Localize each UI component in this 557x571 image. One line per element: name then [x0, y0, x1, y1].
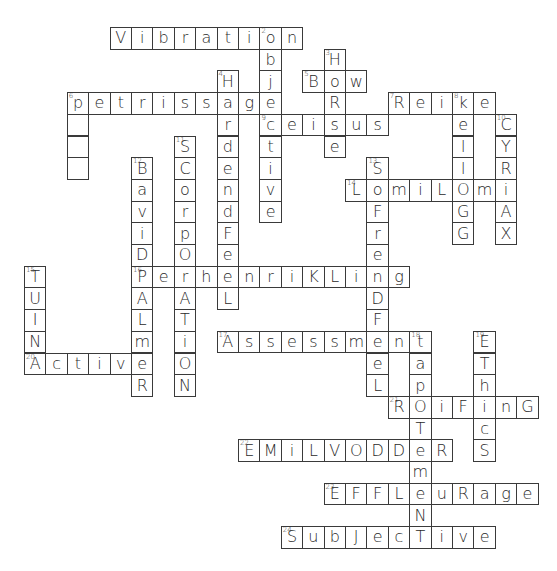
crossword-cell[interactable]: v [131, 201, 153, 224]
crossword-cell[interactable]: e [131, 353, 153, 376]
crossword-cell[interactable]: b [152, 27, 174, 50]
crossword-cell[interactable]: 10C [495, 114, 517, 137]
crossword-cell[interactable]: e [366, 244, 388, 267]
crossword-cell[interactable]: 7R [388, 92, 410, 115]
crossword-cell[interactable]: D [366, 287, 388, 310]
crossword-cell[interactable]: V [324, 439, 346, 462]
crossword-cell[interactable]: O [409, 396, 431, 419]
crossword-cell[interactable]: e [217, 157, 239, 180]
crossword-cell[interactable]: g [388, 266, 410, 289]
crossword-cell[interactable]: i [409, 179, 431, 202]
crossword-cell[interactable]: n [495, 396, 517, 419]
crossword-cell[interactable]: e [88, 92, 110, 115]
crossword-cell[interactable]: o [324, 70, 346, 93]
crossword-cell[interactable]: O [452, 179, 474, 202]
crossword-cell[interactable]: c [388, 526, 410, 549]
crossword-cell[interactable]: T [473, 353, 495, 376]
crossword-cell[interactable]: e [366, 526, 388, 549]
crossword-cell[interactable]: i [431, 396, 453, 419]
crossword-cell[interactable]: 21R [388, 396, 410, 419]
crossword-cell[interactable]: i [431, 526, 453, 549]
crossword-cell[interactable]: h [473, 374, 495, 397]
crossword-cell[interactable]: p [409, 374, 431, 397]
crossword-cell[interactable]: o [366, 179, 388, 202]
crossword-cell[interactable]: h [195, 266, 217, 289]
crossword-cell[interactable]: A [174, 287, 196, 310]
crossword-cell[interactable]: J [345, 526, 367, 549]
crossword-cell[interactable]: 6p [67, 92, 89, 115]
crossword-cell[interactable]: 20A [24, 353, 46, 376]
crossword-cell[interactable]: 23E [324, 483, 346, 506]
crossword-cell[interactable]: t [217, 27, 239, 50]
crossword-cell[interactable]: i [345, 266, 367, 289]
crossword-cell[interactable]: g [238, 92, 260, 115]
crossword-cell[interactable]: i [495, 179, 517, 202]
crossword-cell[interactable]: e [366, 331, 388, 354]
crossword-cell[interactable]: s [324, 114, 346, 137]
crossword-cell[interactable]: s [174, 92, 196, 115]
crossword-cell[interactable]: l [452, 136, 474, 159]
crossword-cell[interactable]: c [473, 418, 495, 441]
crossword-cell[interactable]: i [88, 353, 110, 376]
crossword-cell[interactable]: d [217, 201, 239, 224]
crossword-cell[interactable]: o [174, 179, 196, 202]
crossword-cell[interactable]: i [302, 114, 324, 137]
crossword-cell[interactable]: N [409, 504, 431, 527]
crossword-cell[interactable]: 24S [281, 526, 303, 549]
crossword-cell[interactable]: m [345, 331, 367, 354]
crossword-cell[interactable]: a [473, 483, 495, 506]
crossword-cell[interactable]: 12B [131, 157, 153, 180]
crossword-cell[interactable]: F [452, 396, 474, 419]
crossword-cell[interactable]: D [388, 439, 410, 462]
crossword-cell[interactable]: i [473, 396, 495, 419]
crossword-cell[interactable] [67, 136, 89, 159]
crossword-cell[interactable]: a [409, 353, 431, 376]
crossword-cell[interactable]: w [345, 70, 367, 93]
crossword-cell[interactable]: i [131, 27, 153, 50]
crossword-cell[interactable]: e [409, 92, 431, 115]
crossword-cell[interactable]: e [324, 136, 346, 159]
crossword-cell[interactable]: 11S [174, 136, 196, 159]
crossword-cell[interactable]: j [259, 70, 281, 93]
crossword-cell[interactable]: p [174, 222, 196, 245]
crossword-cell[interactable]: e [366, 353, 388, 376]
crossword-cell[interactable]: O [174, 244, 196, 267]
crossword-cell[interactable]: I [24, 309, 46, 332]
crossword-cell[interactable]: m [388, 179, 410, 202]
crossword-cell[interactable]: 17A [217, 331, 239, 354]
crossword-cell[interactable]: r [366, 222, 388, 245]
crossword-cell[interactable]: b [259, 49, 281, 72]
crossword-cell[interactable]: e [409, 439, 431, 462]
crossword-cell[interactable]: e [217, 266, 239, 289]
crossword-cell[interactable]: F [366, 201, 388, 224]
crossword-cell[interactable]: e [281, 331, 303, 354]
crossword-cell[interactable] [67, 114, 89, 137]
crossword-cell[interactable]: T [409, 526, 431, 549]
crossword-cell[interactable]: G [452, 201, 474, 224]
crossword-cell[interactable]: X [495, 222, 517, 245]
crossword-cell[interactable]: n [281, 27, 303, 50]
crossword-cell[interactable]: v [452, 526, 474, 549]
crossword-cell[interactable]: i [152, 92, 174, 115]
crossword-cell[interactable]: F [366, 309, 388, 332]
crossword-cell[interactable]: 22E [238, 439, 260, 462]
crossword-cell[interactable]: r [174, 266, 196, 289]
crossword-cell[interactable]: 4H [217, 70, 239, 93]
crossword-cell[interactable]: R [131, 374, 153, 397]
crossword-cell[interactable]: d [217, 136, 239, 159]
crossword-cell[interactable]: e [473, 526, 495, 549]
crossword-cell[interactable]: R [452, 483, 474, 506]
crossword-cell[interactable]: O [345, 439, 367, 462]
crossword-cell[interactable]: r [131, 92, 153, 115]
crossword-cell[interactable]: 13S [366, 157, 388, 180]
crossword-cell[interactable]: D [131, 244, 153, 267]
crossword-cell[interactable]: g [495, 483, 517, 506]
crossword-cell[interactable]: i [431, 92, 453, 115]
crossword-cell[interactable]: L [131, 309, 153, 332]
crossword-cell[interactable]: 5B [302, 70, 324, 93]
crossword-cell[interactable]: l [452, 157, 474, 180]
crossword-cell[interactable]: m [131, 331, 153, 354]
crossword-cell[interactable]: 18t [409, 331, 431, 354]
crossword-cell[interactable]: L [217, 287, 239, 310]
crossword-cell[interactable]: v [259, 179, 281, 202]
